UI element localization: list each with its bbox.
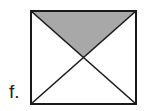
shaded-top-triangle [31,11,136,58]
square-diagram [0,0,144,111]
